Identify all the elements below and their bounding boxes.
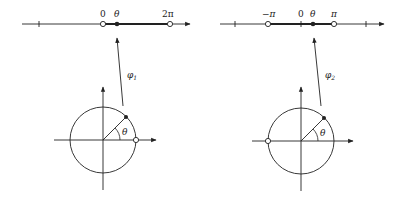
left-panel: 0 θ 2π φ1 θ — [22, 9, 190, 190]
right-open-point-minus-pi — [265, 21, 270, 26]
left-label-2pi: 2π — [162, 9, 174, 19]
left-circle-theta-label: θ — [122, 127, 128, 137]
left-angle-arc — [115, 128, 120, 140]
left-circle-filled-point — [124, 115, 128, 119]
right-map-arrow — [314, 38, 321, 106]
right-angle-arc — [313, 129, 318, 141]
right-panel: −π 0 θ π φ2 θ — [220, 9, 384, 191]
right-circle-filled-point — [322, 116, 326, 120]
left-map-arrow — [117, 38, 123, 106]
left-label-theta: θ — [114, 9, 120, 19]
left-filled-point-theta — [115, 22, 120, 27]
right-label-theta: θ — [310, 9, 316, 19]
right-open-point-pi — [331, 21, 336, 26]
left-circle-open-point — [133, 137, 138, 142]
diagram-canvas: 0 θ 2π φ1 θ −π 0 θ π φ2 — [0, 0, 398, 203]
right-label-zero: 0 — [298, 9, 304, 19]
left-open-point-zero — [100, 21, 105, 26]
right-map-label: φ2 — [325, 70, 335, 81]
left-open-point-2pi — [167, 21, 172, 26]
right-label-pi: π — [330, 9, 338, 19]
right-label-minus-pi: −π — [262, 9, 277, 19]
right-circle-open-point — [265, 138, 270, 143]
right-filled-point-theta — [311, 22, 316, 27]
right-circle-theta-label: θ — [320, 128, 326, 138]
left-label-zero: 0 — [100, 9, 106, 19]
left-map-label: φ1 — [127, 70, 137, 81]
